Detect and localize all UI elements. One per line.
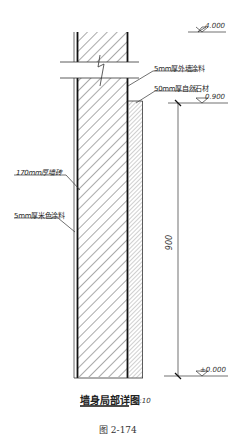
elevation-ground: ±0.000 — [200, 366, 226, 374]
drawing-scale: 1:10 — [135, 397, 151, 405]
label-outer-paint: 5mm厚外墙涂料 — [154, 63, 205, 73]
figure-caption: 图 2-174 — [99, 423, 137, 436]
elevation-marks — [164, 27, 228, 376]
label-inner-paint: 5mm厚米色涂料 — [14, 210, 65, 220]
drawing-title: 墙身局部详图 — [80, 392, 140, 407]
dimension-900: 900 — [165, 235, 174, 250]
dimension-line — [175, 100, 181, 379]
elevation-top: 4.000 — [205, 22, 225, 30]
elevation-sill: 0.900 — [205, 93, 225, 101]
label-stone: 50mm厚自然石材 — [154, 83, 209, 93]
label-wall: 170mm厚墙砖 — [16, 167, 62, 177]
stone-cladding — [128, 101, 143, 378]
